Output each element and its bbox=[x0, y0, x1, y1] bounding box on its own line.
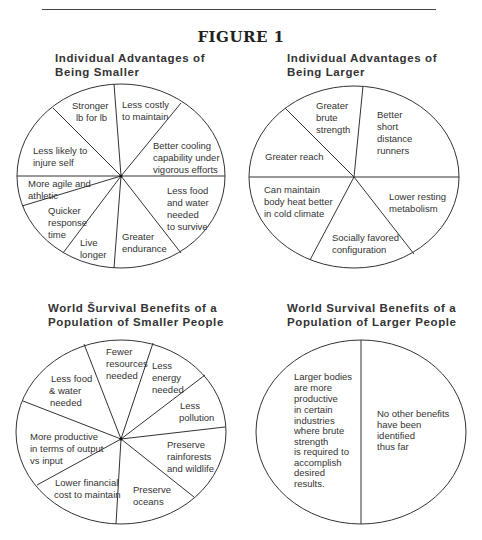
segment-label: Better coolingcapability undervigorous e… bbox=[153, 140, 220, 175]
pie-individual-smaller: Strongerlb for lb Less costlyto maintain… bbox=[17, 84, 225, 268]
segment-label: Lower financialcost to maintain bbox=[54, 477, 121, 500]
segment-label: Lesspollution bbox=[179, 400, 214, 423]
segment-label: Quickerresponsetime bbox=[48, 205, 87, 240]
segment-label: Less foodand waterneededto survive bbox=[167, 185, 209, 232]
segment-label: Preserveoceans bbox=[133, 484, 171, 507]
pie-individual-larger: Greaterbrutestrength Bettershortdistance… bbox=[249, 86, 459, 268]
segment-label: Less likely toinjure self bbox=[33, 145, 87, 168]
segment-label: Bettershortdistancerunners bbox=[377, 109, 412, 156]
segment-label: Lower restingmetabolism bbox=[389, 191, 446, 214]
segment-label: Less food& waterneeded bbox=[49, 373, 92, 408]
segment-label: Socially favoredconfiguration bbox=[332, 232, 399, 255]
segment-label: Lessenergyneeded bbox=[152, 360, 184, 395]
segment-label: Greaterbrutestrength bbox=[316, 100, 350, 135]
segment-label: Can maintainbody heat betterin cold clim… bbox=[264, 184, 333, 219]
segment-label: Preserverainforestsand wildlife bbox=[167, 439, 214, 474]
segment-label: Greaterendurance bbox=[122, 231, 167, 254]
segment-label: No other benefits have been identified t… bbox=[377, 408, 452, 452]
segment-label: Less costlyto maintain bbox=[122, 99, 169, 122]
segment-label: Livelonger bbox=[80, 237, 106, 260]
pie-world-larger: Larger bodies are more productive in cer… bbox=[256, 340, 466, 524]
pie-diagrams: Strongerlb for lb Less costlyto maintain… bbox=[0, 0, 482, 540]
segment-label: More productivein terms of outputvs inpu… bbox=[30, 431, 104, 466]
segment-label: Larger bodies are more productive in cer… bbox=[293, 371, 355, 489]
pie-world-smaller: Fewerresourcesneeded Lessenergyneeded Le… bbox=[16, 340, 226, 524]
segment-label: Strongerlb for lb bbox=[72, 100, 108, 123]
segment-label: More agile andathletic bbox=[28, 178, 91, 201]
segment-label: Greater reach bbox=[265, 151, 324, 162]
